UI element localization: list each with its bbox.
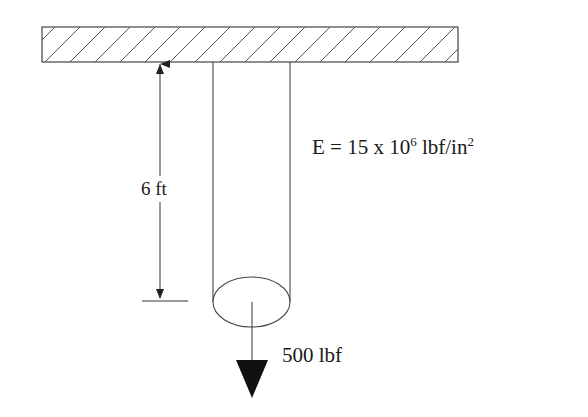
modulus-base: E = 15 x 10	[312, 135, 410, 159]
load-arrowhead-icon	[236, 360, 268, 398]
length-label: 6 ft	[141, 176, 167, 202]
modulus-label: E = 15 x 106 lbf/in2	[312, 134, 474, 160]
modulus-unit: lbf/in	[417, 135, 468, 159]
load-label: 500 lbf	[282, 343, 342, 368]
rod	[213, 62, 290, 327]
dim-arrow-up-icon	[156, 64, 164, 74]
dim-arrow-down-icon	[156, 289, 164, 299]
fixed-support	[20, 27, 480, 62]
modulus-unit-exponent: 2	[467, 134, 474, 149]
